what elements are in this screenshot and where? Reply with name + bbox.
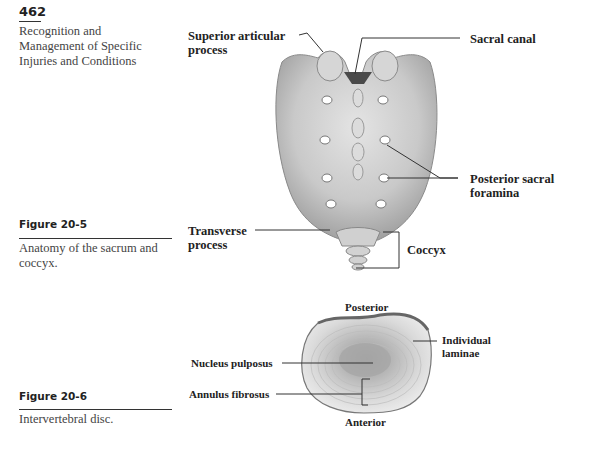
label-nucleus-pulposus: Nucleus pulposus <box>191 357 273 370</box>
label-individual-laminae: Individual laminae <box>442 334 491 360</box>
figure-20-6-rule <box>19 409 172 410</box>
page-number: 462 <box>19 4 46 19</box>
figure-20-5-title: Figure 20-5 <box>19 218 87 230</box>
label-posterior: Posterior <box>345 301 388 314</box>
figure-20-5-caption: Anatomy of the sacrum and coccyx. <box>19 241 179 271</box>
label-anterior: Anterior <box>345 416 386 429</box>
label-coccyx: Coccyx <box>407 243 446 257</box>
label-posterior-sacral-foramina: Posterior sacral foramina <box>470 172 554 200</box>
label-sacral-canal: Sacral canal <box>470 32 536 46</box>
label-superior-articular-process: Superior articular process <box>188 29 285 57</box>
label-annulus-fibrosus: Annulus fibrosus <box>189 388 269 401</box>
label-transverse-process: Transverse process <box>188 224 247 252</box>
figure-20-5-rule <box>19 238 172 239</box>
figure-20-6-title: Figure 20-6 <box>19 390 87 402</box>
page-number-rule <box>19 21 41 22</box>
running-head: Recognition and Management of Specific I… <box>19 24 169 69</box>
figure-20-6-caption: Intervertebral disc. <box>19 412 179 427</box>
